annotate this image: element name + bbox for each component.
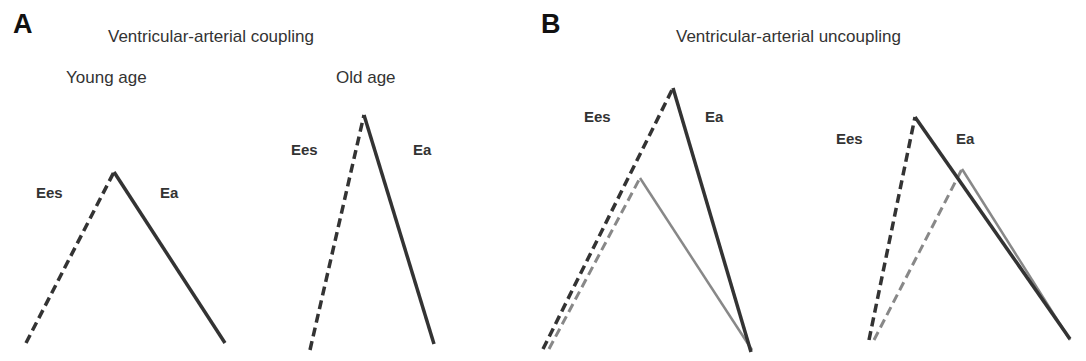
b-right-dark-ea-line	[915, 117, 1070, 339]
old-ea-line	[364, 115, 434, 344]
young-age-triangle	[26, 172, 225, 343]
uncoupling-left-triangles	[543, 88, 752, 352]
young-ees-line	[26, 172, 114, 343]
young-ea-line	[114, 172, 225, 343]
b-left-gray-ea-line	[640, 178, 752, 350]
old-age-triangle	[310, 115, 434, 350]
elastance-diagram	[0, 0, 1086, 361]
old-ees-line	[310, 115, 364, 350]
b-left-gray-ees-line	[549, 178, 640, 349]
b-right-dark-ees-line	[869, 117, 915, 340]
b-left-dark-ea-line	[673, 88, 751, 352]
b-left-dark-ees-line	[543, 88, 673, 349]
uncoupling-right-triangles	[869, 117, 1070, 340]
